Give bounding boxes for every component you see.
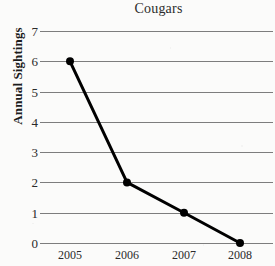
plot-area <box>44 31 273 243</box>
y-axis-tick-label: 2 <box>24 176 38 189</box>
y-axis-tick-mark <box>40 152 44 153</box>
y-axis-tick-mark <box>40 243 44 244</box>
x-axis-tick-label: 2008 <box>217 249 263 262</box>
gridline <box>44 152 273 153</box>
x-axis-tick-label: 2006 <box>104 249 150 262</box>
y-axis-tick-label: 4 <box>24 116 38 129</box>
x-axis-tick-label: 2007 <box>161 249 207 262</box>
y-axis-tick-mark <box>40 31 44 32</box>
y-axis-tick-mark <box>40 122 44 123</box>
y-axis-tick-label: 1 <box>24 207 38 220</box>
x-axis-tick-labels: 2005200620072008 <box>0 249 275 263</box>
gridline <box>44 61 273 62</box>
y-axis-tick-label: 5 <box>24 86 38 99</box>
gridline <box>44 243 273 244</box>
y-axis-tick-label: 3 <box>24 146 38 159</box>
y-axis-tick-mark <box>40 61 44 62</box>
gridline <box>44 213 273 214</box>
y-axis-tick-label: 6 <box>24 55 38 68</box>
y-axis-tick-label: 7 <box>24 25 38 38</box>
gridline <box>44 182 273 183</box>
gridline <box>44 122 273 123</box>
chart-title: Cougars <box>44 1 273 17</box>
gridline <box>44 31 273 32</box>
y-axis-tick-mark <box>40 213 44 214</box>
y-axis-tick-labels: 76543210 <box>24 31 38 243</box>
gridline <box>44 92 273 93</box>
y-axis-tick-mark <box>40 92 44 93</box>
y-axis-tick-mark <box>40 182 44 183</box>
x-axis-tick-label: 2005 <box>47 249 93 262</box>
line-chart: Cougars Annual Sightings 76543210 200520… <box>0 0 275 266</box>
